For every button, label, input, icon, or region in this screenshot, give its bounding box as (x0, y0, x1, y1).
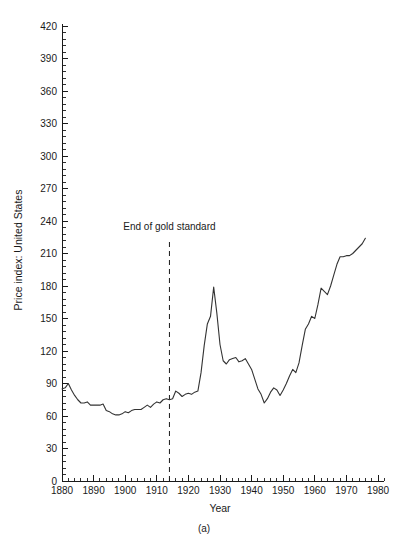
y-axis-ticks (62, 26, 68, 481)
x-tick-label: 1920 (177, 485, 200, 496)
y-tick-label: 360 (40, 86, 57, 97)
y-tick-label: 420 (40, 21, 57, 32)
y-tick-label: 150 (40, 313, 57, 324)
y-tick-label: 120 (40, 346, 57, 357)
x-tick-label: 1980 (367, 485, 390, 496)
figure-container: 0306090120150180210240270300330360390420… (0, 0, 408, 543)
x-tick-label: 1970 (335, 485, 358, 496)
y-tick-label: 390 (40, 53, 57, 64)
y-tick-label: 30 (46, 443, 58, 454)
x-axis-title: Year (209, 502, 231, 514)
y-tick-label: 240 (40, 216, 57, 227)
x-tick-label: 1900 (114, 485, 137, 496)
y-tick-label: 270 (40, 183, 57, 194)
annotation-group: End of gold standard (123, 221, 215, 481)
x-axis-tick-labels: 1880189019001910192019301940195019601970… (51, 485, 390, 496)
y-axis-tick-labels: 0306090120150180210240270300330360390420 (40, 21, 57, 487)
figure-caption: (a) (198, 523, 210, 534)
x-tick-label: 1950 (272, 485, 295, 496)
y-tick-label: 300 (40, 151, 57, 162)
x-tick-label: 1960 (304, 485, 327, 496)
x-tick-label: 1940 (240, 485, 263, 496)
end-of-gold-standard-label: End of gold standard (123, 221, 215, 232)
y-tick-label: 210 (40, 248, 57, 259)
y-tick-label: 330 (40, 118, 57, 129)
y-tick-label: 60 (46, 411, 58, 422)
x-tick-label: 1930 (209, 485, 232, 496)
y-tick-label: 180 (40, 281, 57, 292)
x-tick-label: 1910 (146, 485, 169, 496)
price-index-series-line (62, 238, 365, 415)
y-tick-label: 90 (46, 378, 58, 389)
x-tick-label: 1890 (82, 485, 105, 496)
y-axis-title: Price index: United States (12, 190, 24, 311)
x-tick-label: 1880 (51, 485, 74, 496)
price-index-line-chart: 0306090120150180210240270300330360390420… (0, 0, 408, 543)
x-axis-ticks (62, 475, 384, 481)
